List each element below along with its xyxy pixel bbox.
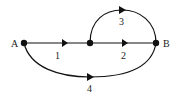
graph-diagram: 1 2 3 4 A B xyxy=(0,0,179,96)
edge-4-arrow-icon xyxy=(87,73,94,81)
edge-4 xyxy=(24,43,156,77)
node-a-label: A xyxy=(11,38,19,49)
edge-1-arrow-icon xyxy=(62,39,68,47)
node-a xyxy=(21,40,27,46)
edge-1-label: 1 xyxy=(55,50,60,61)
edge-2-label: 2 xyxy=(121,50,126,61)
node-middle xyxy=(87,40,93,46)
node-b xyxy=(153,40,159,46)
edge-2-arrow-icon xyxy=(122,39,128,47)
edge-3-arrow-icon xyxy=(119,6,126,14)
edge-4-label: 4 xyxy=(87,83,92,94)
edge-3-label: 3 xyxy=(119,16,124,27)
node-b-label: B xyxy=(163,38,170,49)
